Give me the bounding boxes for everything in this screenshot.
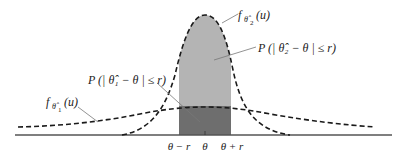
- svg-text:(u): (u): [256, 8, 270, 22]
- tick-theta-plus-r: θ + r: [221, 140, 244, 152]
- label-wide-density: f θ̂ 1 (u): [46, 95, 78, 114]
- leader-f1: [78, 107, 98, 122]
- svg-text:(u): (u): [64, 95, 78, 109]
- label-p1: P (| θ̂₁ − θ | ≤ r): [87, 73, 166, 87]
- svg-text:1: 1: [58, 106, 62, 114]
- svg-text:2: 2: [250, 19, 254, 27]
- svg-text:f: f: [46, 95, 51, 109]
- tick-theta: θ: [202, 140, 208, 152]
- label-narrow-density: f θ̂ 2 (u): [238, 8, 270, 27]
- tick-theta-minus-r: θ − r: [168, 140, 191, 152]
- leader-f2: [222, 14, 238, 23]
- label-p2: P (| θ̂₂ − θ | ≤ r): [257, 41, 336, 55]
- probability-density-diagram: f θ̂ 2 (u) P (| θ̂₂ − θ | ≤ r) P (| θ̂₁ …: [0, 0, 402, 162]
- svg-text:f: f: [238, 8, 243, 22]
